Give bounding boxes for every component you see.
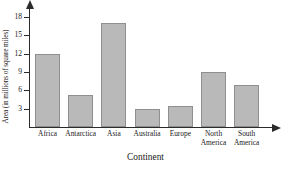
bar-chart: Area (in millions of square miles) 36912… xyxy=(0,0,291,173)
bar xyxy=(201,72,226,127)
x-axis-title: Continent xyxy=(0,152,291,162)
y-axis-tick-label: 15 xyxy=(14,29,22,40)
bar xyxy=(101,23,126,127)
y-axis-tick-label: 6 xyxy=(18,84,22,95)
y-axis-tick: 18 xyxy=(0,17,29,18)
bar xyxy=(168,106,193,127)
x-axis-category-label: South America xyxy=(225,130,268,147)
y-axis-tick-label: 12 xyxy=(14,48,22,59)
y-axis-tick-label: 3 xyxy=(18,103,22,114)
y-axis-tick: 6 xyxy=(0,90,29,91)
y-axis-title: Area (in millions of square miles) xyxy=(0,12,12,141)
x-axis-line xyxy=(29,127,273,128)
y-axis-tick: 15 xyxy=(0,35,29,36)
bar xyxy=(68,95,93,127)
plot-area xyxy=(29,8,277,127)
bar xyxy=(135,109,160,127)
y-axis-tick: 12 xyxy=(0,54,29,55)
bar xyxy=(234,85,259,127)
bar xyxy=(35,54,60,127)
y-axis-tick: 9 xyxy=(0,72,29,73)
y-axis-tick: 3 xyxy=(0,109,29,110)
y-axis-tick-label: 9 xyxy=(18,66,22,77)
y-axis-tick-label: 18 xyxy=(14,11,22,22)
